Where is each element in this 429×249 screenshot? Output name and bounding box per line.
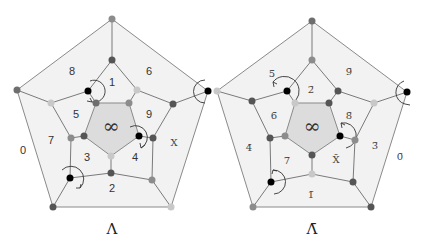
face-label-8: 8̄ bbox=[346, 110, 352, 121]
face-label-outer: 0 bbox=[20, 144, 26, 156]
face-label-5: 5̄ bbox=[269, 68, 275, 79]
face-label-3: 3̄ bbox=[372, 140, 378, 151]
face-label-4: 4 bbox=[132, 151, 138, 163]
right-caption: Λ̄ bbox=[306, 220, 318, 238]
face-label-x: X̄ bbox=[332, 154, 340, 165]
face-label-8: 8 bbox=[69, 65, 75, 77]
face-label-1: 1̄ bbox=[308, 189, 314, 200]
face-label-6: 6 bbox=[146, 65, 152, 77]
face-label-7: 7 bbox=[48, 134, 54, 146]
face-label-2: 2̄ bbox=[308, 84, 314, 95]
face-label-1: 1 bbox=[109, 76, 115, 88]
dodecahedral-diagrams: ∞ 0 1 2 3 4 5 6 7 8 9 X Λ bbox=[0, 0, 429, 249]
center-label: ∞ bbox=[103, 114, 120, 138]
face-label-2: 2 bbox=[109, 182, 115, 194]
face-label-6: 6̄ bbox=[271, 110, 277, 121]
face-label-x: X bbox=[170, 137, 178, 148]
face-label-5: 5 bbox=[73, 108, 79, 120]
face-label-9: 9̄ bbox=[346, 66, 352, 77]
left-diagram: ∞ 0 1 2 3 4 5 6 7 8 9 X Λ bbox=[14, 16, 212, 239]
face-label-outer: 0̄ bbox=[397, 151, 403, 162]
left-caption: Λ bbox=[106, 220, 118, 238]
face-label-7: 7̄ bbox=[284, 155, 290, 166]
face-label-9: 9 bbox=[146, 108, 152, 120]
right-diagram: ∞ 0̄ 1̄ 2̄ 3̄ 4̄ 5̄ 6̄ 7̄ 8̄ 9̄ X̄ Λ̄ bbox=[214, 18, 411, 239]
face-label-3: 3 bbox=[84, 151, 90, 163]
face-label-4: 4̄ bbox=[246, 142, 252, 153]
center-label: ∞ bbox=[304, 114, 321, 138]
